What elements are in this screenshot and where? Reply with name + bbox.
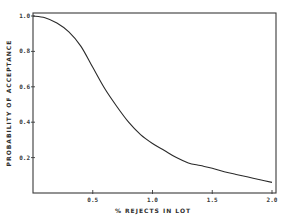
- plot-border: [33, 13, 276, 193]
- x-tick-label: 1.0: [147, 196, 158, 203]
- y-axis-label: PROBABILITY OF ACCEPTANCE: [5, 40, 12, 167]
- oc-curve-chart: 0.20.40.60.81.0 0.51.01.52.0 % REJECTS I…: [0, 0, 286, 220]
- x-axis-ticks: 0.51.01.52.0: [87, 190, 277, 203]
- y-tick-label: 0.4: [19, 118, 30, 125]
- y-tick-label: 0.8: [19, 47, 30, 54]
- oc-curve-line: [33, 16, 272, 182]
- x-axis-label: % REJECTS IN LOT: [115, 207, 191, 215]
- x-tick-label: 2.0: [267, 196, 278, 203]
- plot-frame: [33, 13, 276, 193]
- y-tick-label: 0.2: [19, 154, 30, 161]
- y-tick-label: 0.6: [19, 83, 30, 90]
- x-tick-label: 0.5: [87, 196, 98, 203]
- y-tick-label: 1.0: [19, 12, 30, 19]
- x-tick-label: 1.5: [207, 196, 218, 203]
